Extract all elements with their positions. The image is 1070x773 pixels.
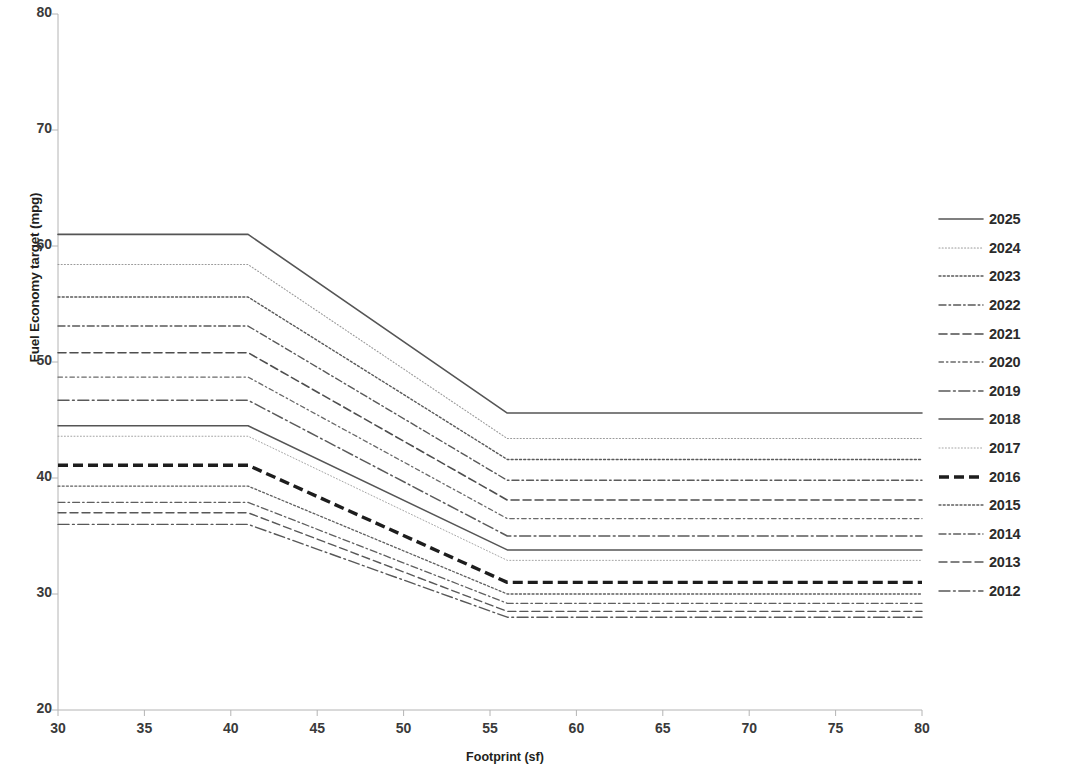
axes <box>58 14 922 710</box>
legend-line-swatch-icon <box>938 241 984 255</box>
y-tick-label-40: 40 <box>18 469 52 483</box>
legend-item-2019[interactable]: 2019 <box>938 377 1043 406</box>
fuel-economy-target-chart: Fuel Economy target (mpg) 20304050607080… <box>0 0 1070 773</box>
legend-item-2015[interactable]: 2015 <box>938 491 1043 520</box>
legend-line-swatch-icon <box>938 555 984 569</box>
legend-line-swatch-icon <box>938 269 984 283</box>
x-tick-label-55: 55 <box>470 720 510 736</box>
series-line-2012 <box>58 524 922 617</box>
attribution-credit: Reprinted with permission from Ref. [3-7… <box>1034 0 1062 773</box>
legend-line-swatch-icon <box>938 412 984 426</box>
y-tick-label-30: 30 <box>18 585 52 599</box>
legend-item-2023[interactable]: 2023 <box>938 262 1043 291</box>
legend-item-2022[interactable]: 2022 <box>938 291 1043 320</box>
series-line-2019 <box>58 400 922 536</box>
series-line-2022 <box>58 326 922 480</box>
legend-item-2025[interactable]: 2025 <box>938 205 1043 234</box>
legend-line-swatch-icon <box>938 212 984 226</box>
legend: 2025202420232022202120202019201820172016… <box>938 205 1043 605</box>
series-line-2015 <box>58 486 922 594</box>
x-axis-title: Footprint (sf) <box>60 750 950 764</box>
series-line-2018 <box>58 426 922 550</box>
series-line-2023 <box>58 297 922 459</box>
legend-line-swatch-icon <box>938 498 984 512</box>
legend-item-label: 2017 <box>989 440 1020 456</box>
legend-item-2017[interactable]: 2017 <box>938 434 1043 463</box>
legend-item-label: 2012 <box>989 583 1020 599</box>
x-tick-label-35: 35 <box>124 720 164 736</box>
legend-item-2018[interactable]: 2018 <box>938 405 1043 434</box>
legend-line-swatch-icon <box>938 384 984 398</box>
x-tick-label-45: 45 <box>297 720 337 736</box>
series-line-2014 <box>58 502 922 603</box>
series-line-2025 <box>58 234 922 413</box>
legend-item-2021[interactable]: 2021 <box>938 319 1043 348</box>
legend-item-2016[interactable]: 2016 <box>938 462 1043 491</box>
x-tick-label-60: 60 <box>556 720 596 736</box>
x-tick-label-75: 75 <box>816 720 856 736</box>
y-axis-tick-labels: 20304050607080 <box>0 0 52 773</box>
y-tick-label-50: 50 <box>18 353 52 367</box>
legend-item-label: 2024 <box>989 240 1020 256</box>
legend-item-2013[interactable]: 2013 <box>938 548 1043 577</box>
legend-item-label: 2014 <box>989 526 1020 542</box>
x-tick-label-65: 65 <box>643 720 683 736</box>
legend-item-label: 2020 <box>989 354 1020 370</box>
legend-item-label: 2023 <box>989 268 1020 284</box>
legend-item-label: 2016 <box>989 469 1020 485</box>
legend-line-swatch-icon <box>938 441 984 455</box>
legend-item-label: 2025 <box>989 211 1020 227</box>
x-tick-label-50: 50 <box>384 720 424 736</box>
legend-line-swatch-icon <box>938 584 984 598</box>
legend-item-label: 2013 <box>989 554 1020 570</box>
y-tick-label-70: 70 <box>18 121 52 135</box>
legend-item-2024[interactable]: 2024 <box>938 234 1043 263</box>
x-tick-label-70: 70 <box>729 720 769 736</box>
legend-item-label: 2019 <box>989 383 1020 399</box>
series-group <box>58 234 922 617</box>
legend-line-swatch-icon <box>938 327 984 341</box>
legend-item-2014[interactable]: 2014 <box>938 520 1043 549</box>
legend-line-swatch-icon <box>938 355 984 369</box>
legend-item-2012[interactable]: 2012 <box>938 577 1043 606</box>
legend-item-2020[interactable]: 2020 <box>938 348 1043 377</box>
legend-item-label: 2015 <box>989 497 1020 513</box>
legend-item-label: 2021 <box>989 326 1020 342</box>
x-axis-ticks <box>58 710 922 716</box>
y-axis-ticks <box>52 14 58 710</box>
legend-item-label: 2018 <box>989 411 1020 427</box>
y-tick-label-80: 80 <box>18 5 52 19</box>
y-tick-label-20: 20 <box>18 701 52 715</box>
legend-line-swatch-icon <box>938 298 984 312</box>
legend-item-label: 2022 <box>989 297 1020 313</box>
x-tick-label-40: 40 <box>211 720 251 736</box>
x-tick-label-30: 30 <box>38 720 78 736</box>
plot-area <box>0 0 1070 773</box>
legend-line-swatch-icon <box>938 527 984 541</box>
legend-line-swatch-icon <box>938 470 984 484</box>
x-axis-tick-labels: 3035404550556065707580 <box>0 720 1070 746</box>
y-tick-label-60: 60 <box>18 237 52 251</box>
x-tick-label-80: 80 <box>902 720 942 736</box>
